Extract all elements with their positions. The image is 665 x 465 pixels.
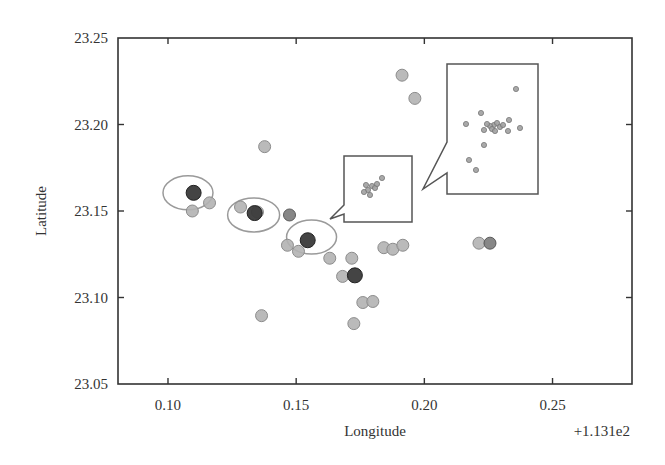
small-inset bbox=[330, 156, 412, 222]
x-tick-label: 0.25 bbox=[539, 397, 565, 413]
x-tick-label: 0.20 bbox=[411, 397, 437, 413]
x-tick-label: 0.15 bbox=[283, 397, 309, 413]
data-point bbox=[348, 318, 360, 330]
inset-point bbox=[517, 125, 522, 130]
data-point bbox=[409, 92, 421, 104]
inset-point bbox=[361, 189, 366, 194]
data-point bbox=[300, 233, 315, 248]
data-point bbox=[473, 237, 485, 249]
inset-point bbox=[500, 122, 505, 127]
scatter-chart: 0.100.150.200.25 23.0523.1023.1523.2023.… bbox=[0, 0, 665, 465]
data-point bbox=[324, 252, 336, 264]
data-point bbox=[204, 197, 216, 209]
y-axis-label: Latitude bbox=[33, 186, 49, 236]
zoom-insets bbox=[330, 64, 538, 222]
data-point bbox=[367, 295, 379, 307]
inset-point bbox=[478, 110, 483, 115]
data-point bbox=[186, 185, 201, 200]
y-tick-label: 23.05 bbox=[74, 376, 108, 392]
y-tick-label: 23.15 bbox=[74, 203, 108, 219]
inset-point bbox=[506, 117, 511, 122]
data-point bbox=[284, 209, 296, 221]
inset-point bbox=[513, 86, 518, 91]
data-point bbox=[347, 268, 362, 283]
data-point bbox=[484, 237, 496, 249]
x-axis-label: Longitude bbox=[344, 423, 406, 439]
data-point bbox=[292, 245, 304, 257]
inset-point bbox=[367, 192, 372, 197]
data-point bbox=[259, 141, 271, 153]
inset-point bbox=[492, 128, 497, 133]
inset-point bbox=[363, 182, 368, 187]
data-point bbox=[247, 206, 262, 221]
data-point bbox=[186, 205, 198, 217]
inset-point bbox=[473, 167, 478, 172]
inset-point bbox=[374, 181, 379, 186]
y-tick-label: 23.10 bbox=[74, 290, 108, 306]
data-point bbox=[337, 270, 349, 282]
data-point bbox=[346, 252, 358, 264]
y-tick-label: 23.25 bbox=[74, 30, 108, 46]
inset-point bbox=[481, 127, 486, 132]
data-point bbox=[397, 239, 409, 251]
data-point bbox=[256, 310, 268, 322]
data-point bbox=[396, 69, 408, 81]
data-point bbox=[281, 239, 293, 251]
inset-point bbox=[466, 157, 471, 162]
y-tick-label: 23.20 bbox=[74, 117, 108, 133]
data-point bbox=[235, 201, 247, 213]
x-tick-label: 0.10 bbox=[155, 397, 181, 413]
inset-point bbox=[463, 121, 468, 126]
inset-point bbox=[505, 128, 510, 133]
inset-point bbox=[484, 121, 489, 126]
inset-point bbox=[379, 175, 384, 180]
x-axis-offset-label: +1.131e2 bbox=[574, 423, 630, 439]
inset-point bbox=[481, 142, 486, 147]
